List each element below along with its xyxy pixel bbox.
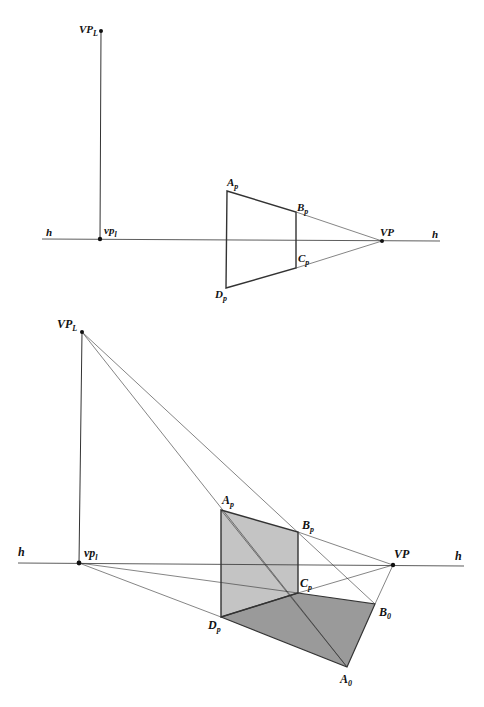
label-bp: Bp [296,201,308,216]
label-b0: B0 [378,605,391,621]
top-diagram [42,31,440,288]
vpl-vertical [100,31,101,239]
label-vpl: VPL [57,317,77,333]
label-h-right: h [455,549,462,563]
label-a0: A0 [339,672,352,688]
label-vpl: VPL [79,23,98,38]
top-points [98,29,384,243]
construction-line [298,532,393,565]
vpl-vertical [79,332,82,563]
label-vp: VP [380,226,394,238]
top-labels: h h VPL vpl Ap Bp Cp Dp VP [46,23,438,303]
label-h: h [18,545,25,559]
label-h: h [46,226,52,238]
construction-line [298,565,393,593]
bottom-labels: h h VPL vpl Ap Bp Cp Dp VP B0 A0 [18,317,462,688]
label-dp: Dp [207,618,221,634]
construction-line [375,565,393,604]
construction-line [82,332,347,667]
label-ap: Ap [221,493,234,509]
construction-line [79,563,221,617]
plane-abcd [226,191,296,288]
label-dp: Dp [214,288,227,303]
label-ap: Ap [226,176,238,191]
perspective-diagram: h h VPL vpl Ap Bp Cp Dp VP [0,0,484,707]
label-cp: Cp [298,252,309,267]
construction-line [296,212,382,241]
label-vp-l: vpl [84,546,98,562]
label-h-right: h [432,228,438,240]
label-vp: VP [394,547,410,561]
label-bp: Bp [301,518,314,534]
label-cp: Cp [300,576,312,592]
label-vp-l: vpl [104,224,117,239]
